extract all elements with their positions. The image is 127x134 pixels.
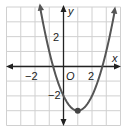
y-tick-label-neg2: −2 [48,89,61,101]
y-axis-up-arrow-icon [61,5,67,12]
y-axis-down-arrow-icon [61,119,67,126]
y-tick-label-2: 2 [53,31,59,43]
x-tick-label-2: 2 [88,70,94,82]
x-axis-left-arrow-icon [6,64,13,70]
axes [6,5,121,126]
origin-label: O [66,70,75,82]
x-tick-label-neg2: −2 [25,70,38,82]
parabola-graph: y x O −2 2 2 −2 [0,0,127,134]
x-axis-right-arrow-icon [114,64,121,70]
vertex-point [75,108,81,114]
x-axis-label: x [111,52,118,64]
curve-right-arrow-icon [111,6,117,13]
